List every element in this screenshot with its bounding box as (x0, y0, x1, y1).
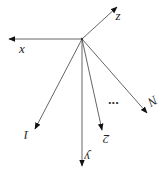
vector-arrow-2 (82, 39, 102, 130)
vector-label-2: 2 (102, 132, 109, 147)
origin-point (81, 38, 83, 40)
vector-label-1: 1 (23, 128, 30, 143)
ellipsis-label: ... (108, 92, 119, 107)
axis-arrow-z (82, 7, 117, 39)
axis-label-y: y (84, 150, 92, 165)
axis-label-x: x (18, 41, 25, 56)
vector-arrow-1 (35, 39, 82, 129)
axis-label-z: z (114, 8, 120, 23)
vector-label-N: N (144, 92, 161, 110)
vector-diagram: xzy12N... (0, 0, 165, 177)
diagram-canvas: xzy12N... (0, 0, 165, 177)
